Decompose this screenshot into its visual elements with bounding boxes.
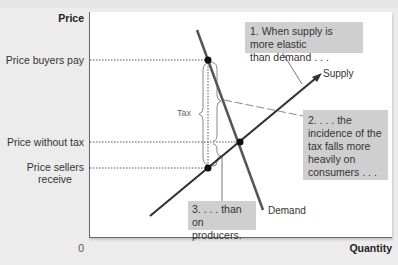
callout-1: 1. When supply is more elastic than dema… — [245, 22, 363, 53]
point-buyers-pay — [205, 57, 212, 64]
callout-3: 3. . . . than on producers. — [188, 201, 256, 230]
supply-curve — [150, 78, 316, 216]
callout-3-line1: 3. . . . than — [192, 203, 252, 216]
tax-brace-icon — [199, 62, 213, 166]
callout-2-line3: tax falls more — [308, 140, 383, 153]
callout-1-line1: 1. When supply is more elastic — [250, 25, 358, 51]
callout-2-line4: heavily on — [308, 153, 383, 166]
callout-2-line1: 2. . . . the — [308, 114, 383, 127]
callout-2-line5: consumers . . . — [308, 166, 383, 179]
point-equilibrium — [237, 139, 244, 146]
callout-3-line2: on producers. — [192, 216, 252, 242]
point-sellers-receive — [205, 165, 212, 172]
leader-callout-2 — [224, 100, 303, 116]
callout-1-line2: than demand . . . — [250, 51, 358, 64]
supply-label: Supply — [323, 68, 354, 79]
callout-2-line2: incidence of the — [308, 127, 383, 140]
callout-2: 2. . . . the incidence of the tax falls … — [303, 110, 388, 180]
demand-label: Demand — [268, 205, 306, 216]
tax-label: Tax — [177, 108, 191, 118]
